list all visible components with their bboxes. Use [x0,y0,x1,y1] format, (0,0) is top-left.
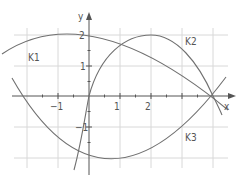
curve-label-k2: K2 [185,36,197,47]
y-axis-label: y [78,11,84,22]
tick-label-x-neg1: −1 [50,101,63,112]
curve-k3 [12,77,226,159]
grid [14,28,228,168]
tick-label-x-2: 2 [145,101,151,112]
tick-label-y-1: 1 [80,61,86,72]
tick-label-y-2: 2 [79,30,85,41]
curve-label-k3: K3 [185,132,197,143]
x-axis-arrow-icon [228,93,236,99]
y-axis-arrow-icon [86,12,92,20]
curve-label-k1: K1 [28,52,40,63]
tick-label-x-1: 1 [114,101,120,112]
function-graph: x y −1 1 2 2 1 −1 K1 K2 K3 [0,0,242,183]
tick-label-y-neg1: −1 [75,122,88,133]
x-axis-label: x [224,101,230,112]
